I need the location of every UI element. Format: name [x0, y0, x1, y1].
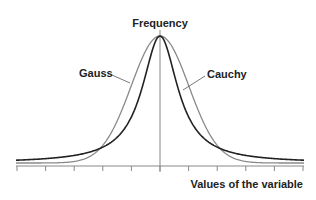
gauss-label: Gauss: [79, 67, 113, 79]
cauchy-label: Cauchy: [207, 68, 248, 80]
x-axis-label: Values of the variable: [191, 178, 304, 190]
x-axis-ticks: [17, 166, 303, 171]
gauss-leader-line: [112, 75, 130, 83]
y-axis-label: Frequency: [132, 17, 189, 29]
distribution-chart: Frequency Gauss Cauchy Values of the var…: [0, 0, 316, 200]
